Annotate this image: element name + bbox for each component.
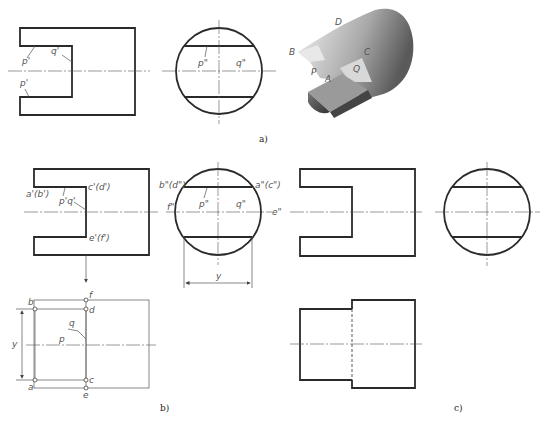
label-f: f bbox=[89, 290, 94, 300]
label-b-d-double-prime: b"(d") bbox=[159, 180, 186, 190]
label-q-prime: q' bbox=[51, 46, 59, 56]
label-q-double-prime: q" bbox=[236, 58, 246, 68]
label-C: C bbox=[364, 47, 371, 57]
label-d: d bbox=[89, 305, 95, 315]
panel-a-side-view: p" q" bbox=[162, 20, 278, 124]
label-p-q-prime: p'q' bbox=[58, 196, 75, 206]
label-a-b-prime: a'(b') bbox=[26, 189, 49, 199]
label-p: p bbox=[58, 334, 65, 344]
caption-b: b) bbox=[160, 403, 169, 413]
panel-a-isometric-view: D B C P A Q bbox=[289, 9, 413, 118]
label-q: q bbox=[69, 318, 75, 328]
label-p-double-prime: p" bbox=[197, 58, 208, 68]
label-b: b bbox=[28, 297, 34, 307]
label-A: A bbox=[324, 74, 331, 84]
label-Q: Q bbox=[353, 64, 360, 74]
label-p-double-prime: p" bbox=[198, 199, 209, 209]
label-p-prime-top: p' bbox=[21, 56, 30, 66]
label-q-double-prime: q" bbox=[236, 199, 246, 209]
dimension-y-side: y bbox=[215, 271, 222, 281]
label-f-double-prime: f" bbox=[167, 202, 174, 212]
label-D: D bbox=[335, 17, 342, 27]
label-c: c bbox=[89, 375, 94, 385]
label-p-prime-bottom: p' bbox=[19, 78, 28, 88]
panel-b: a'(b') p'q' c'(d') e'(f') b"(d") a"(c") … bbox=[11, 162, 282, 413]
panel-c-front-view bbox=[290, 169, 422, 256]
panel-c: c) bbox=[290, 162, 540, 413]
panel-a-front-view: p' q' p' bbox=[8, 28, 150, 115]
label-e: e bbox=[83, 390, 89, 400]
label-B: B bbox=[289, 47, 295, 57]
panel-c-top-view bbox=[290, 300, 422, 388]
panel-b-side-view: b"(d") a"(c") f" e" p" q" y bbox=[159, 162, 282, 288]
label-a-c-double-prime: a"(c") bbox=[255, 180, 281, 190]
dimension-y-top: y bbox=[11, 339, 18, 349]
caption-c: c) bbox=[454, 403, 463, 413]
label-P: P bbox=[311, 67, 317, 77]
technical-drawing: p' q' p' p" q" D B C P A Q bbox=[0, 0, 541, 424]
panel-b-top-view: b f d q p a c e y bbox=[11, 290, 156, 400]
caption-a: a) bbox=[259, 134, 268, 144]
panel-a: p' q' p' p" q" D B C P A Q bbox=[8, 9, 413, 144]
panel-b-front-view: a'(b') p'q' c'(d') e'(f') bbox=[24, 169, 160, 282]
label-e-double-prime: e" bbox=[272, 207, 282, 217]
label-c-d-prime: c'(d') bbox=[88, 182, 111, 192]
label-a: a bbox=[28, 382, 34, 392]
panel-c-side-view bbox=[435, 162, 540, 266]
label-e-f-prime: e'(f') bbox=[89, 233, 110, 243]
